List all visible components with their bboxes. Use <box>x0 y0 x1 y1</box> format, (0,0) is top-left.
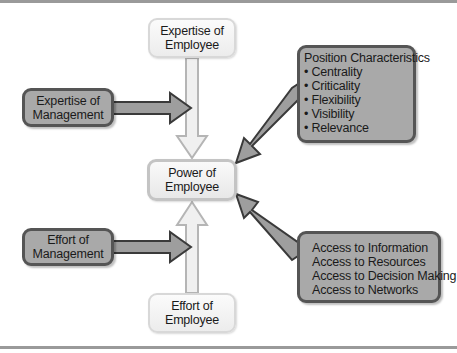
power-of-employee-box: Power of Employee <box>147 159 237 201</box>
list-item: • Criticality <box>304 79 360 93</box>
arrow-from-effort-management <box>112 232 191 262</box>
box-label: Employee <box>165 180 219 194</box>
access-box: Access to Information Access to Resource… <box>297 231 441 303</box>
expertise-of-management-box: Expertise of Management <box>22 88 114 127</box>
list-item: • Relevance <box>304 121 369 135</box>
effort-of-employee-box: Effort of Employee <box>148 293 236 333</box>
list-item: • Visibility <box>304 107 354 121</box>
list-item: Access to Information <box>312 241 428 255</box>
effort-of-management-box: Effort of Management <box>22 228 114 266</box>
arrow-from-access <box>236 194 306 260</box>
box-label: Employee <box>165 38 219 52</box>
list-item: Access to Networks <box>312 283 418 297</box>
box-label: Effort of <box>47 233 89 247</box>
arrow-from-expertise-management <box>112 93 191 123</box>
arrow-from-position-characteristics <box>236 84 306 163</box>
box-label: Power of <box>168 166 216 180</box>
position-title: Position Characteristics <box>304 51 430 65</box>
box-label: Effort of <box>171 299 213 313</box>
box-label: Management <box>33 108 104 122</box>
box-label: Management <box>33 247 104 261</box>
box-label: Employee <box>165 313 219 327</box>
list-item: Access to Resources <box>312 255 426 269</box>
list-item: • Flexibility <box>304 93 361 107</box>
list-item: Access to Decision Making <box>312 269 456 283</box>
position-characteristics-box: Position Characteristics • Centrality • … <box>297 45 416 143</box>
box-label: Expertise of <box>160 24 224 38</box>
box-label: Expertise of <box>36 94 100 108</box>
list-item: • Centrality <box>304 65 362 79</box>
expertise-of-employee-box: Expertise of Employee <box>148 18 236 58</box>
